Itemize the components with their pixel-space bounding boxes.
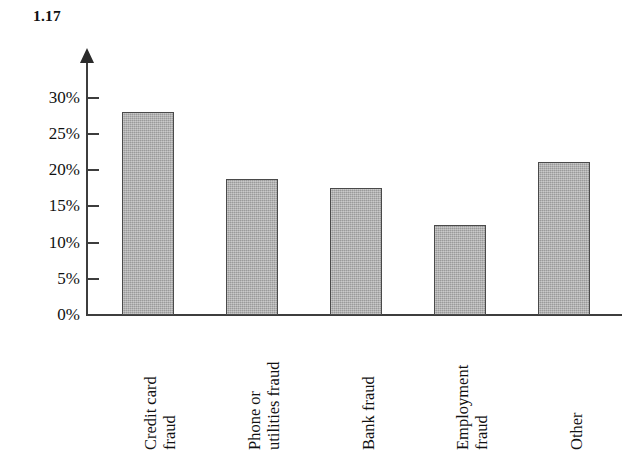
y-axis-tick-label-text: 15% <box>16 197 80 214</box>
y-axis-tick-label-text: 10% <box>16 234 80 251</box>
bar-chart-plot-area: 0%5%10%15%20%25%30% Credit cardfraudPhon… <box>0 0 644 458</box>
y-axis-tick <box>88 278 99 280</box>
y-axis-tick <box>88 169 99 171</box>
bar <box>330 188 382 315</box>
figure-root: 1.17 0%5%10%15%20%25%30% Credit cardfrau… <box>0 0 644 458</box>
y-axis-tick <box>88 242 99 244</box>
bar <box>538 162 590 315</box>
bar <box>122 112 174 315</box>
y-axis-tick-label-text: 5% <box>16 270 80 287</box>
bar <box>226 179 278 315</box>
y-axis-tick <box>88 205 99 207</box>
y-axis-tick <box>88 97 99 99</box>
y-axis-arrow-icon <box>80 48 94 63</box>
y-axis-tick-label-text: 20% <box>16 161 80 178</box>
y-axis-tick-label-text: 25% <box>16 125 80 142</box>
bar <box>434 225 486 315</box>
y-axis-tick <box>88 133 99 135</box>
y-axis-tick-label-text: 30% <box>16 89 80 106</box>
y-axis-tick-label-text: 0% <box>16 306 80 323</box>
